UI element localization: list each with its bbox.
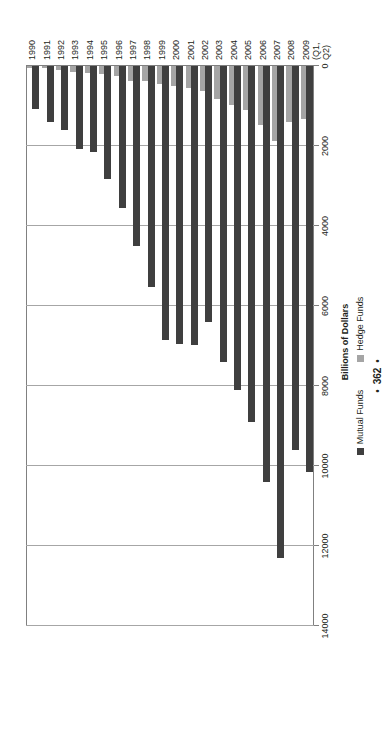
category-axis-label-line: 2007 [272,40,282,60]
bar-mutual-funds [176,66,183,344]
bar-mutual-funds [61,66,68,130]
value-axis-tick [314,385,319,386]
value-axis-tick-label: 12000 [320,523,330,569]
category-axis-label-line: 1993 [70,40,80,60]
bar-mutual-funds [90,66,97,152]
page-number-dot-right: • [372,359,382,363]
bar-mutual-funds [133,66,140,246]
category-axis-label: 2007 [272,40,282,60]
category-axis-label-line: 1999 [157,40,167,60]
category-axis-label: 2000 [171,40,181,60]
page-number: •362• [372,0,382,752]
gridline [26,145,314,146]
page-number-dot-left: • [372,389,382,393]
bar-mutual-funds [191,66,198,345]
bar-mutual-funds [292,66,299,450]
value-axis-tick [314,305,319,306]
value-axis-tick-label: 4000 [320,203,330,249]
category-axis-label-line: 1995 [99,40,109,60]
legend-swatch [357,448,364,455]
category-axis-label: 2004 [229,40,239,60]
gridline [26,385,314,386]
category-axis-label-line: 1992 [56,40,66,60]
category-axis-label-line: 2005 [243,40,253,60]
category-axis-label: 1993 [70,40,80,60]
chart-legend: Mutual FundsHedge Funds [355,0,365,752]
value-axis-tick [314,225,319,226]
bar-mutual-funds [47,66,54,122]
bar-mutual-funds [205,66,212,322]
value-axis-title: Billions of Dollars [340,262,350,422]
category-axis-label-line: 2000 [171,40,181,60]
gridline [26,225,314,226]
legend-swatch [357,355,364,362]
category-axis-label: 1999 [157,40,167,60]
bar-mutual-funds [32,66,39,109]
category-axis-label: 2001 [186,40,196,60]
bar-chart-figure: 02000400060008000100001200014000 Billion… [0,0,340,752]
bar-mutual-funds [306,66,313,472]
legend-label: Hedge Funds [355,297,365,351]
value-axis-tick-label: 10000 [320,443,330,489]
page-number-value: 362 [372,368,382,385]
bar-mutual-funds [119,66,126,208]
value-axis-tick-label: 14000 [320,603,330,649]
value-axis-tick [314,625,319,626]
legend-label: Mutual Funds [355,390,365,445]
value-axis-tick [314,545,319,546]
category-axis-label: 1997 [128,40,138,60]
category-axis-label-line: 1998 [142,40,152,60]
category-axis-label-line: 2004 [229,40,239,60]
bar-mutual-funds [234,66,241,390]
category-axis-label-line: Q2) [321,40,331,60]
category-axis-label-line: 1990 [27,40,37,60]
value-axis-zero-line [26,65,314,66]
category-axis-label-line: (Q1, [311,40,321,60]
category-axis-label-line: 1991 [42,40,52,60]
category-axis-label: 1990 [27,40,37,60]
bar-mutual-funds [277,66,284,558]
category-axis-label: 2005 [243,40,253,60]
category-axis-label: 2002 [200,40,210,60]
category-axis-label-line: 1996 [114,40,124,60]
legend-entry: Mutual Funds [355,390,365,456]
category-axis-label: 1991 [42,40,52,60]
category-axis-label: 2006 [258,40,268,60]
category-axis-label: 1995 [99,40,109,60]
category-axis-label: 1992 [56,40,66,60]
value-axis-tick [314,465,319,466]
value-axis-tick [314,65,319,66]
value-axis-tick-label: 2000 [320,123,330,169]
bar-mutual-funds [148,66,155,287]
category-axis-label: 2003 [214,40,224,60]
category-axis-label-line: 2002 [200,40,210,60]
gridline [26,545,314,546]
book-page: 02000400060008000100001200014000 Billion… [0,0,382,752]
bar-mutual-funds [162,66,169,340]
category-axis-label-line: 2003 [214,40,224,60]
category-axis-label-line: 1994 [85,40,95,60]
gridline [26,625,314,626]
category-axis-label-line: 2008 [286,40,296,60]
bar-mutual-funds [263,66,270,482]
legend-entry: Hedge Funds [355,297,365,362]
category-axis-label: 2008 [286,40,296,60]
value-axis-tick-label: 6000 [320,283,330,329]
category-axis-label: 1996 [114,40,124,60]
bar-mutual-funds [104,66,111,179]
gridline [26,465,314,466]
bar-mutual-funds [220,66,227,362]
category-axis-label-line: 2009 [301,40,311,60]
category-axis-label: 2009(Q1,Q2) [301,40,331,60]
bar-mutual-funds [76,66,83,149]
category-axis-label-line: 2006 [258,40,268,60]
category-axis-label: 1998 [142,40,152,60]
plot-area [26,66,314,626]
value-axis-tick-label: 8000 [320,363,330,409]
value-axis-tick [314,145,319,146]
category-axis-label: 1994 [85,40,95,60]
gridline [26,305,314,306]
category-axis-label-line: 1997 [128,40,138,60]
category-axis-label-line: 2001 [186,40,196,60]
bar-mutual-funds [248,66,255,422]
